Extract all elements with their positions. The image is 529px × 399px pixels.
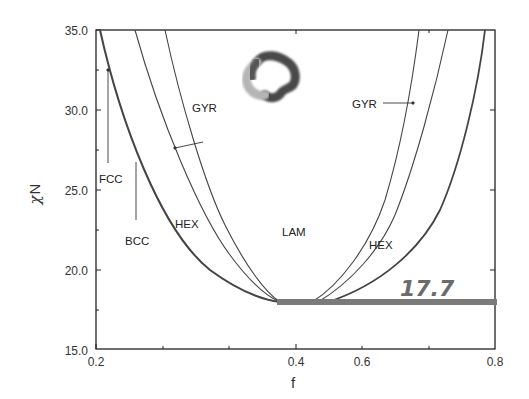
y-tick-30: 30.0	[65, 104, 89, 118]
label-gyr-left: GYR	[192, 102, 217, 114]
label-fcc: FCC	[99, 173, 123, 185]
label-hex-right: HEX	[369, 239, 393, 251]
x-tick-0.2: 0.2	[88, 355, 105, 369]
gyr-right-pointer-dot	[412, 102, 414, 104]
gyr-left-pointer-dot	[174, 147, 176, 149]
y-axis-n: N	[26, 184, 43, 195]
y-axis-title: χ N	[26, 184, 44, 206]
label-gyr-right: GYR	[352, 98, 377, 110]
x-tick-0.6: 0.6	[354, 355, 371, 369]
fcc-pointer-dot	[107, 69, 109, 71]
x-tick-0.8: 0.8	[487, 355, 504, 369]
molecule-ring-icon	[246, 56, 295, 98]
y-tick-20: 20.0	[65, 264, 89, 278]
curve-right-hex	[318, 30, 448, 302]
y-axis-chi: χ	[26, 195, 44, 206]
y-tick-15: 15.0	[65, 344, 89, 358]
y-tick-35: 35.0	[65, 24, 89, 38]
curve-left-hex	[135, 30, 280, 302]
label-lam: LAM	[282, 226, 306, 238]
gyr-left-pointer	[175, 142, 203, 148]
threshold-value-label: 17.7	[400, 276, 455, 301]
x-tick-0.4: 0.4	[288, 355, 305, 369]
label-hex-left: HEX	[175, 218, 199, 230]
y-tick-25: 25.0	[65, 184, 89, 198]
phase-diagram: 35.0 30.0 25.0 20.0 15.0 0.2 0.4 0.6 0.8…	[0, 0, 529, 399]
label-bcc: BCC	[125, 235, 149, 247]
curve-right-outer	[328, 30, 485, 302]
x-axis-title: f	[291, 374, 296, 391]
